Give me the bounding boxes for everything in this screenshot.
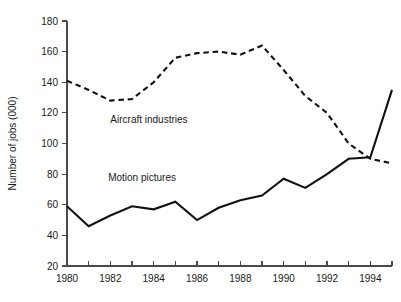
y-tick-label: 180 [41, 16, 58, 27]
y-axis-ticks: 20406080100120140160180 [41, 16, 67, 272]
axes [67, 21, 392, 266]
y-tick-label: 80 [47, 169, 59, 180]
y-tick-label: 100 [41, 138, 58, 149]
x-tick-label: 1980 [56, 273, 79, 284]
y-tick-label: 120 [41, 107, 58, 118]
y-axis-title: Number of jobs (000) [7, 97, 18, 191]
series-line-aircraft-industries [67, 46, 392, 164]
y-tick-label: 20 [47, 261, 59, 272]
series-line-motion-pictures [67, 90, 392, 226]
series-annotation-motion-pictures: Motion pictures [108, 172, 176, 183]
series-annotation-aircraft-industries: Aircraft industries [110, 114, 187, 125]
x-tick-label: 1994 [359, 273, 382, 284]
y-tick-label: 140 [41, 77, 58, 88]
y-tick-label: 40 [47, 230, 59, 241]
x-tick-label: 1992 [316, 273, 339, 284]
x-axis-ticks: 19801982198419861988199019921994 [56, 261, 392, 284]
axis-spines [67, 21, 392, 266]
x-tick-label: 1990 [273, 273, 296, 284]
y-tick-label: 60 [47, 199, 59, 210]
chart-figure: 20406080100120140160180 1980198219841986… [0, 0, 401, 302]
x-tick-label: 1988 [229, 273, 252, 284]
y-tick-label: 160 [41, 46, 58, 57]
x-tick-label: 1984 [143, 273, 166, 284]
data-series [67, 46, 392, 227]
x-tick-label: 1982 [99, 273, 122, 284]
series-annotations: Aircraft industriesMotion pictures [108, 114, 187, 183]
y-axis-title-label: Number of jobs (000) [7, 97, 18, 191]
line-chart-canvas: 20406080100120140160180 1980198219841986… [0, 0, 401, 302]
x-tick-label: 1986 [186, 273, 209, 284]
